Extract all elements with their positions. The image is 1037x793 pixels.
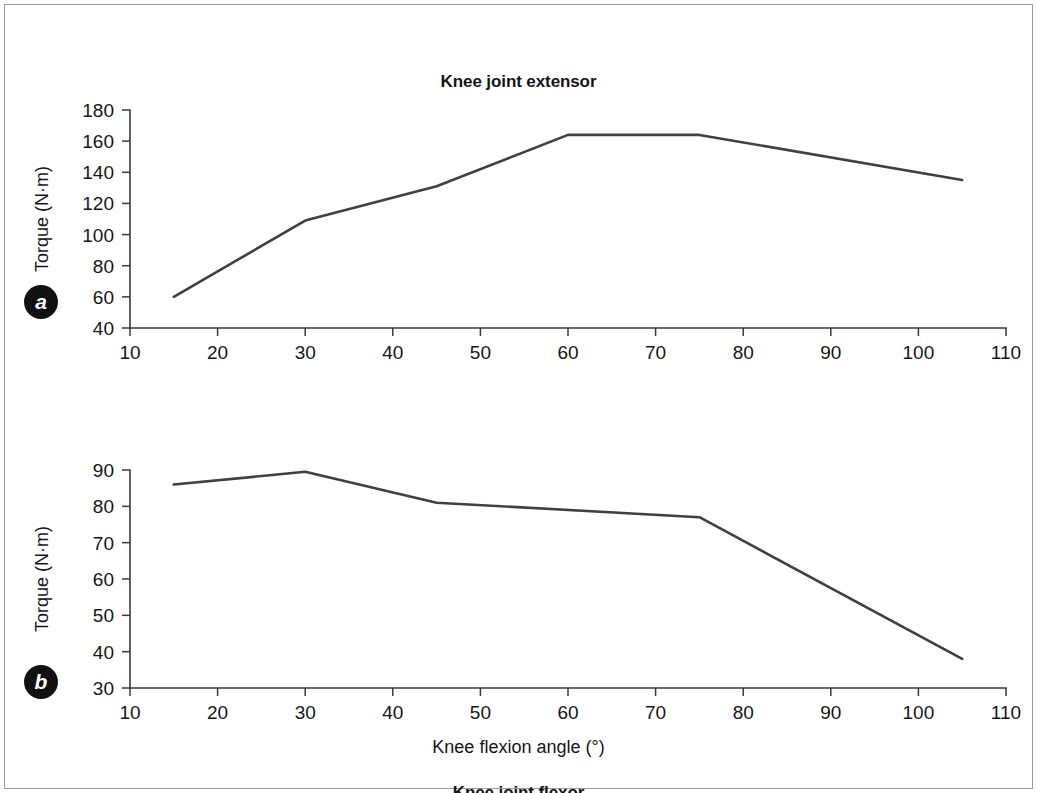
x-tick-label: 90 [820, 702, 841, 720]
y-tick-label: 140 [82, 162, 114, 183]
chart-extensor: 4060801001201401601801020304050607080901… [0, 60, 1037, 360]
chart-title-flexor: Knee joint flexor [0, 783, 1037, 793]
x-tick-label: 30 [295, 702, 316, 720]
y-axis-title: Torque (N·m) [32, 166, 52, 272]
x-tick-label: 70 [645, 342, 666, 360]
x-axis-caption: Knee flexion angle (°) [0, 737, 1037, 758]
y-tick-label: 180 [82, 100, 114, 121]
y-tick-label: 100 [82, 225, 114, 246]
x-tick-label: 40 [382, 342, 403, 360]
x-tick-label: 80 [733, 702, 754, 720]
chart-flexor: 30405060708090102030405060708090100110To… [0, 420, 1037, 720]
figure-container: Knee joint extensor a 406080100120140160… [0, 0, 1037, 793]
x-tick-label: 20 [207, 342, 228, 360]
x-tick-label: 50 [470, 342, 491, 360]
x-tick-label: 40 [382, 702, 403, 720]
x-tick-label: 80 [733, 342, 754, 360]
x-tick-label: 110 [991, 342, 1021, 360]
y-tick-label: 30 [93, 678, 114, 699]
x-tick-label: 20 [207, 702, 228, 720]
y-tick-label: 50 [93, 605, 114, 626]
y-tick-label: 60 [93, 569, 114, 590]
x-tick-label: 30 [295, 342, 316, 360]
y-tick-label: 80 [93, 256, 114, 277]
y-tick-label: 40 [93, 642, 114, 663]
x-tick-label: 60 [557, 342, 578, 360]
y-axis-title: Torque (N·m) [32, 526, 52, 632]
data-series-line [174, 472, 962, 659]
x-tick-label: 60 [557, 702, 578, 720]
x-tick-label: 10 [119, 342, 140, 360]
y-tick-label: 40 [93, 318, 114, 339]
y-tick-label: 120 [82, 193, 114, 214]
y-tick-label: 90 [93, 460, 114, 481]
y-tick-label: 160 [82, 131, 114, 152]
x-tick-label: 70 [645, 702, 666, 720]
x-tick-label: 10 [119, 702, 140, 720]
x-tick-label: 100 [903, 702, 935, 720]
y-tick-label: 70 [93, 533, 114, 554]
x-tick-label: 50 [470, 702, 491, 720]
x-tick-label: 100 [903, 342, 935, 360]
data-series-line [174, 135, 962, 297]
y-tick-label: 80 [93, 496, 114, 517]
x-tick-label: 90 [820, 342, 841, 360]
y-tick-label: 60 [93, 287, 114, 308]
x-tick-label: 110 [991, 702, 1021, 720]
